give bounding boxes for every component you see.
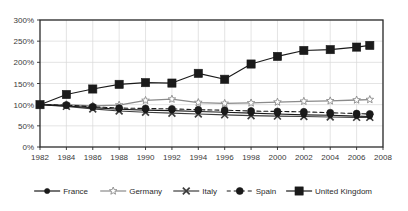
y-tick-label: 0% xyxy=(22,143,34,152)
chart-canvas: 0%50%100%150%200%250%300% 19821984198619… xyxy=(0,0,408,211)
x-tick-label: 1986 xyxy=(84,153,102,162)
x-tick-label: 1982 xyxy=(31,153,49,162)
data-point-spain xyxy=(353,110,360,117)
data-point-spain xyxy=(248,108,255,115)
data-point-united-kingdom xyxy=(168,79,176,87)
data-point-spain xyxy=(116,105,123,112)
data-point-spain xyxy=(274,108,281,115)
x-tick-label: 1988 xyxy=(110,153,128,162)
x-tick-label: 2008 xyxy=(374,153,392,162)
x-tick-label: 1984 xyxy=(57,153,75,162)
x-tick-label: 1990 xyxy=(137,153,155,162)
data-point-united-kingdom xyxy=(89,85,97,93)
x-tick-label: 2004 xyxy=(321,153,339,162)
data-point-spain xyxy=(327,109,334,116)
line-chart: 0%50%100%150%200%250%300% 19821984198619… xyxy=(0,0,408,211)
data-point-spain xyxy=(366,110,373,117)
x-tick-label: 1994 xyxy=(189,153,207,162)
x-tick-label: 1996 xyxy=(216,153,234,162)
x-tick-label: 2000 xyxy=(269,153,287,162)
x-tick-label: 2002 xyxy=(295,153,313,162)
data-point-spain xyxy=(89,103,96,110)
data-point-united-kingdom xyxy=(326,46,334,54)
data-point-united-kingdom xyxy=(36,101,44,109)
data-point-united-kingdom xyxy=(194,69,202,77)
x-tick-label: 1992 xyxy=(163,153,181,162)
data-point-united-kingdom xyxy=(221,75,229,83)
data-point-spain xyxy=(142,105,149,112)
y-tick-label: 200% xyxy=(14,58,34,67)
data-point-spain xyxy=(221,107,228,114)
y-tick-label: 50% xyxy=(18,122,34,131)
data-point-united-kingdom xyxy=(353,43,361,51)
data-point-spain xyxy=(63,102,70,109)
legend-label-france: France xyxy=(63,187,88,196)
data-point-spain xyxy=(168,105,175,112)
data-point-united-kingdom xyxy=(300,46,308,54)
legend-marker-united-kingdom xyxy=(295,187,303,195)
data-point-spain xyxy=(195,106,202,113)
legend-label-united-kingdom: United Kingdom xyxy=(315,187,372,196)
y-tick-label: 100% xyxy=(14,101,34,110)
data-point-spain xyxy=(300,108,307,115)
data-point-united-kingdom xyxy=(115,80,123,88)
data-point-united-kingdom xyxy=(247,60,255,68)
data-point-united-kingdom xyxy=(273,52,281,60)
x-tick-label: 2006 xyxy=(348,153,366,162)
chart-legend: FranceGermanyItalySpainUnited Kingdom xyxy=(34,187,372,196)
data-point-united-kingdom xyxy=(366,41,374,49)
legend-label-italy: Italy xyxy=(202,187,217,196)
legend-marker-spain xyxy=(236,188,243,195)
legend-label-germany: Germany xyxy=(129,187,162,196)
legend-label-spain: Spain xyxy=(256,187,276,196)
data-point-united-kingdom xyxy=(141,79,149,87)
data-point-united-kingdom xyxy=(62,90,70,98)
y-tick-label: 150% xyxy=(14,80,34,89)
legend-marker-france xyxy=(45,188,50,193)
y-tick-label: 250% xyxy=(14,37,34,46)
x-tick-label: 1998 xyxy=(242,153,260,162)
legend-item-united-kingdom: United Kingdom xyxy=(286,187,372,196)
y-tick-label: 300% xyxy=(14,16,34,25)
